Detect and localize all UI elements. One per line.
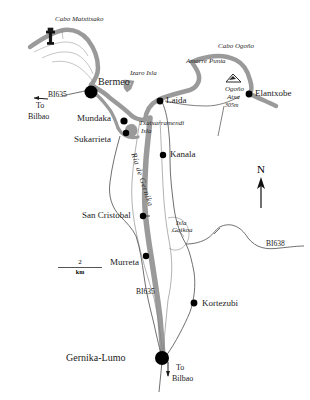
direction-to-west: To xyxy=(36,102,44,110)
place-label-laida: Laida xyxy=(166,96,187,105)
to-bilbao-west-arrow-icon xyxy=(34,96,48,100)
place-label-sukarrieta: Sukarrieta xyxy=(74,135,111,144)
place-label-gernika-lumo: Gernika-Lumo xyxy=(66,353,125,363)
marker-laida xyxy=(157,98,164,105)
road-to-bilbao-south xyxy=(159,362,162,392)
feature-label-isla-goikoa-2: Goikoa xyxy=(172,227,193,234)
feature-label-txatxarramendi-isla: Isla xyxy=(141,128,152,135)
direction-to-south: To xyxy=(176,364,184,372)
road-label-bi635-south: BI635 xyxy=(136,288,155,296)
marker-kanala xyxy=(160,152,166,158)
north-arrow: N xyxy=(250,163,272,213)
place-label-kortezubi: Kortezubi xyxy=(202,299,238,308)
marker-san-cristobal xyxy=(140,213,146,219)
road-bi638 xyxy=(186,225,304,249)
marker-elantxobe xyxy=(246,91,253,98)
feature-label-ogono-atxa: Atxa xyxy=(227,94,240,101)
feature-label-txatxarramendi: Txatxarramendi xyxy=(139,120,184,127)
marker-mundaka xyxy=(120,117,127,124)
scale-bar-value: 2 xyxy=(58,258,102,266)
place-label-san-cristobal: San Cristobal xyxy=(82,211,131,220)
marker-kortezubi xyxy=(191,300,198,307)
mountain-peak-icon xyxy=(226,74,241,82)
north-arrow-icon xyxy=(250,175,272,209)
scale-bar: 2 km xyxy=(58,258,102,275)
feature-label-cabo-matxitxako: Cabo Matxitxako xyxy=(55,16,103,23)
place-label-murreta: Murreta xyxy=(110,258,139,267)
feature-label-ogono-elevation: 305m xyxy=(225,102,238,108)
place-label-kanala: Kanala xyxy=(170,150,195,159)
direction-bilbao-south: Bilbao xyxy=(172,375,193,383)
marker-gernika-lumo xyxy=(155,351,169,365)
marker-sukarrieta xyxy=(123,130,129,136)
feature-label-izaro-isla: Izaro Isla xyxy=(130,70,157,77)
place-label-mundaka: Mundaka xyxy=(77,114,111,123)
scale-bar-line xyxy=(58,267,102,268)
road-label-bi635-north: BI635 xyxy=(48,91,67,99)
to-bilbao-south-arrow-icon xyxy=(166,362,170,377)
marker-murreta xyxy=(143,253,149,259)
map-canvas: Bermeo Mundaka Sukarrieta Laida Kanala E… xyxy=(0,0,310,400)
north-arrow-label: N xyxy=(250,163,272,175)
marker-bermeo xyxy=(85,86,98,99)
road-label-bi638: BI638 xyxy=(266,240,285,248)
feature-label-cabo-ogono: Cabo Ogoño xyxy=(218,43,254,50)
scale-bar-unit: km xyxy=(58,269,102,275)
feature-label-amarre-punta: Amarre Punta xyxy=(186,58,226,65)
place-label-bermeo: Bermeo xyxy=(98,77,130,87)
direction-bilbao-west: Bilbao xyxy=(28,113,49,121)
feature-label-ogono: Ogoño xyxy=(225,86,244,93)
place-label-elantxobe: Elantxobe xyxy=(255,89,292,98)
